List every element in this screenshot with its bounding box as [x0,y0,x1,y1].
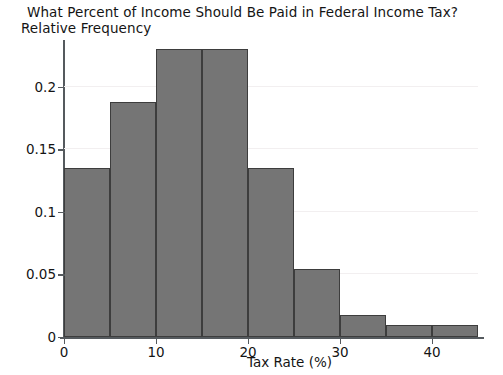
histogram-bar [248,168,294,337]
x-tick-mark [64,337,65,344]
y-tick-label: 0.1 [4,204,56,220]
histogram-bar [386,325,432,338]
x-tick-mark [156,337,157,344]
y-tick-label: 0.2 [4,79,56,95]
x-tick-mark [248,337,249,344]
y-tick-mark [58,274,65,275]
gridline [64,86,478,87]
plot-area [64,40,478,337]
x-tick-label: 20 [228,344,268,360]
histogram-bar [110,102,156,337]
histogram-bar [64,168,110,337]
x-axis-line [60,337,484,339]
x-tick-label: 10 [136,344,176,360]
histogram-bar [156,49,202,337]
y-tick-label: 0.05 [4,266,56,282]
y-tick-label: 0.15 [4,141,56,157]
x-tick-mark [432,337,433,344]
y-tick-mark [58,149,65,150]
x-tick-label: 30 [320,344,360,360]
y-tick-mark [58,212,65,213]
histogram-bar [432,325,478,338]
x-tick-label: 0 [44,344,84,360]
chart-title: What Percent of Income Should Be Paid in… [27,4,458,20]
histogram-bar [202,49,248,337]
y-tick-mark [58,87,65,88]
y-tick-label-group: 00.050.10.150.2 [0,0,56,375]
histogram-bar [340,315,386,338]
histogram-figure: What Percent of Income Should Be Paid in… [0,0,503,375]
histogram-bar [294,269,340,337]
x-tick-mark [340,337,341,344]
x-tick-label: 40 [412,344,452,360]
y-tick-label: 0 [4,329,56,345]
